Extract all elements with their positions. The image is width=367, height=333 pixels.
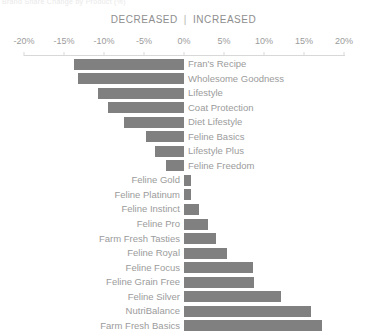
chart-row: Farm Fresh Basics [0, 319, 367, 333]
chart-row: Feline Royal [0, 246, 367, 261]
legend-decreased-label: DECREASED [111, 14, 178, 25]
bar [124, 117, 184, 128]
direction-legend: DECREASED|INCREASED [0, 14, 367, 25]
x-axis-tick-mark [24, 52, 25, 56]
legend-separator: | [178, 14, 193, 25]
bar-category-label: Feline Focus [126, 262, 180, 274]
x-axis-tick-label: 20% [335, 36, 353, 46]
bar-category-label: Coat Protection [188, 102, 253, 114]
bar-category-label: Fran's Recipe [188, 58, 246, 70]
bar [108, 102, 184, 113]
bar [184, 233, 216, 244]
legend-increased-label: INCREASED [193, 14, 256, 25]
plot-area: Fran's RecipeWholesome GoodnessLifestyle… [0, 57, 367, 333]
bar-category-label: Feline Freedom [188, 160, 255, 172]
bar-category-label: Lifestyle [188, 87, 223, 99]
bar [184, 248, 227, 259]
top-caption: Brand Share Change by Product (%) [2, 0, 126, 7]
x-axis-tick-label: 15% [295, 36, 313, 46]
x-axis-line [24, 55, 345, 56]
bar [166, 160, 184, 171]
chart-row: Feline Basics [0, 130, 367, 145]
bar-category-label: Farm Fresh Tasties [99, 233, 180, 245]
bar [184, 291, 281, 302]
bar [184, 306, 311, 317]
bar [184, 175, 191, 186]
bar-category-label: NutriBalance [126, 305, 180, 317]
x-axis-tick-labels: -20%-15%-10%-5%0%5%10%15%20% [0, 36, 367, 48]
bar [184, 204, 199, 215]
chart-row: Lifestyle [0, 86, 367, 101]
x-axis-tick-label: -10% [93, 36, 114, 46]
x-axis-tick-label: 5% [217, 36, 230, 46]
x-axis-tick-mark [64, 52, 65, 56]
x-axis-tick-mark [264, 52, 265, 56]
x-axis-tick-label: 10% [255, 36, 273, 46]
chart-row: Feline Grain Free [0, 275, 367, 290]
x-axis-tick-label: -5% [136, 36, 152, 46]
bar-category-label: Diet Lifestyle [188, 116, 242, 128]
bar-category-label: Feline Silver [128, 291, 180, 303]
chart-row: NutriBalance [0, 304, 367, 319]
chart-row: Feline Pro [0, 217, 367, 232]
chart-row: Wholesome Goodness [0, 72, 367, 87]
x-axis-tick-label: 0% [177, 36, 190, 46]
bar-category-label: Farm Fresh Basics [100, 320, 180, 332]
chart-row: Farm Fresh Tasties [0, 232, 367, 247]
bar-category-label: Feline Platinum [115, 189, 180, 201]
bar [184, 189, 191, 200]
x-axis-tick-mark [224, 52, 225, 56]
x-axis-tick-label: -15% [53, 36, 74, 46]
chart-row: Fran's Recipe [0, 57, 367, 72]
bar [98, 88, 184, 99]
bar-category-label: Feline Grain Free [106, 276, 180, 288]
bar-category-label: Feline Gold [131, 174, 180, 186]
bar [146, 131, 184, 142]
chart-row: Coat Protection [0, 101, 367, 116]
x-axis-tick-mark [304, 52, 305, 56]
chart-row: Feline Platinum [0, 188, 367, 203]
bar [155, 146, 184, 157]
bar-category-label: Feline Instinct [121, 203, 180, 215]
bar-category-label: Feline Royal [127, 247, 180, 259]
x-axis-tick-mark [104, 52, 105, 56]
bar [74, 59, 184, 70]
chart-row: Feline Instinct [0, 202, 367, 217]
bar-category-label: Feline Basics [188, 131, 245, 143]
chart-row: Feline Freedom [0, 159, 367, 174]
chart-row: Diet Lifestyle [0, 115, 367, 130]
bar [78, 73, 184, 84]
bar-category-label: Wholesome Goodness [188, 73, 284, 85]
bar-category-label: Feline Pro [137, 218, 180, 230]
bar [184, 262, 253, 273]
x-axis-tick-mark [184, 52, 185, 56]
x-axis-tick-mark [144, 52, 145, 56]
chart-row: Lifestyle Plus [0, 144, 367, 159]
chart-row: Feline Focus [0, 261, 367, 276]
bar-category-label: Lifestyle Plus [188, 145, 244, 157]
bar [184, 219, 208, 230]
x-axis-tick-mark [344, 52, 345, 56]
x-axis-tick-label: -20% [13, 36, 34, 46]
bar [184, 277, 254, 288]
chart-row: Feline Gold [0, 173, 367, 188]
bar [184, 320, 322, 331]
chart-row: Feline Silver [0, 290, 367, 305]
